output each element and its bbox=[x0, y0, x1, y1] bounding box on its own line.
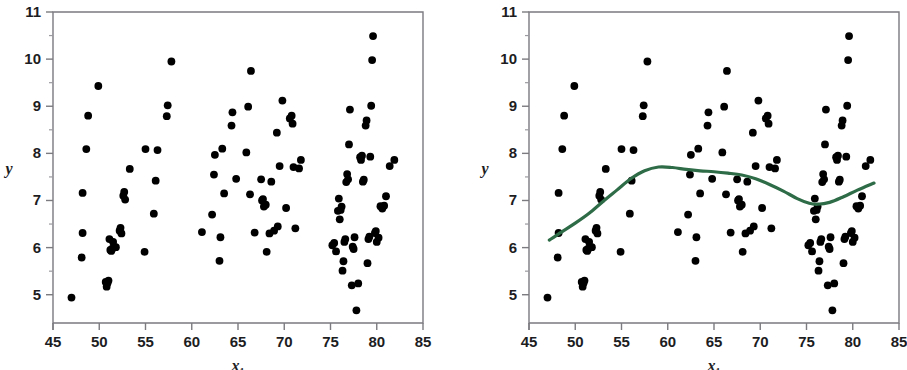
data-point bbox=[554, 254, 562, 262]
data-point bbox=[218, 145, 226, 153]
data-point bbox=[105, 277, 113, 285]
y-tick-label: 11 bbox=[25, 3, 41, 20]
data-point bbox=[380, 202, 388, 210]
data-point bbox=[839, 116, 847, 124]
data-point bbox=[684, 211, 692, 219]
data-point bbox=[765, 120, 773, 128]
data-point bbox=[267, 178, 275, 186]
plot-frame bbox=[53, 12, 423, 323]
data-point bbox=[764, 112, 772, 120]
y-tick-label: 8 bbox=[33, 144, 41, 161]
x-axis-title-subscript: 1 bbox=[240, 366, 245, 370]
data-point bbox=[815, 267, 823, 275]
data-point bbox=[602, 165, 610, 173]
x-tick-label: 80 bbox=[368, 333, 385, 350]
data-point bbox=[68, 294, 76, 302]
data-point bbox=[121, 196, 129, 204]
data-point bbox=[644, 58, 652, 66]
x-tick-label: 50 bbox=[91, 333, 108, 350]
data-point bbox=[341, 235, 349, 243]
data-point bbox=[282, 204, 290, 212]
data-point bbox=[555, 189, 563, 197]
data-point bbox=[844, 56, 852, 64]
data-point bbox=[274, 223, 282, 231]
data-point bbox=[168, 58, 176, 66]
data-point bbox=[354, 280, 362, 288]
data-point bbox=[843, 102, 851, 110]
x-tick-label: 85 bbox=[415, 333, 432, 350]
data-point bbox=[332, 247, 340, 255]
data-point bbox=[211, 151, 219, 159]
data-point bbox=[351, 233, 359, 241]
data-point bbox=[570, 82, 578, 90]
data-point bbox=[84, 112, 92, 120]
data-point bbox=[79, 229, 87, 237]
y-tick-label: 7 bbox=[33, 191, 41, 208]
x-tick-label: 45 bbox=[45, 333, 62, 350]
data-point bbox=[696, 190, 704, 198]
data-point bbox=[152, 177, 160, 185]
data-point bbox=[845, 32, 853, 40]
panel-scatterplot-with-smoother: 455055606570758085567891011x1y bbox=[479, 3, 907, 370]
data-point bbox=[639, 112, 647, 120]
data-point bbox=[723, 67, 731, 75]
dual-scatterplot-canvas: 455055606570758085567891011x1y4550556065… bbox=[0, 0, 907, 370]
data-point bbox=[94, 82, 102, 90]
data-point bbox=[834, 152, 842, 160]
data-point bbox=[367, 102, 375, 110]
data-point bbox=[78, 254, 86, 262]
data-point bbox=[727, 229, 735, 237]
data-point bbox=[755, 97, 763, 105]
data-point bbox=[273, 129, 281, 137]
x-axis-title: x1 bbox=[231, 357, 245, 370]
y-tick-label: 9 bbox=[509, 97, 517, 114]
data-point bbox=[120, 188, 128, 196]
x-axis-title: x1 bbox=[707, 357, 721, 370]
data-point bbox=[232, 175, 240, 183]
data-point bbox=[830, 280, 838, 288]
data-point bbox=[126, 165, 134, 173]
data-point bbox=[750, 223, 758, 231]
data-point bbox=[382, 192, 390, 200]
data-point bbox=[693, 233, 701, 241]
x-tick-label: 60 bbox=[659, 333, 676, 350]
data-point bbox=[338, 203, 346, 211]
data-point bbox=[686, 171, 694, 179]
data-point bbox=[210, 171, 218, 179]
data-point bbox=[720, 103, 728, 111]
data-point bbox=[82, 145, 90, 153]
data-point bbox=[674, 228, 682, 236]
data-point bbox=[806, 239, 814, 247]
data-point bbox=[216, 257, 224, 265]
x-tick-label: 50 bbox=[567, 333, 584, 350]
plot-frame bbox=[529, 12, 899, 323]
data-point bbox=[558, 145, 566, 153]
data-point bbox=[826, 245, 834, 253]
x-tick-label: 60 bbox=[183, 333, 200, 350]
data-point bbox=[246, 190, 254, 198]
data-point bbox=[708, 175, 716, 183]
data-point bbox=[229, 108, 237, 116]
data-point bbox=[345, 141, 353, 149]
data-point bbox=[247, 67, 255, 75]
data-point bbox=[758, 204, 766, 212]
y-tick-label: 5 bbox=[509, 286, 517, 303]
y-tick-label: 8 bbox=[509, 144, 517, 161]
data-point bbox=[279, 97, 287, 105]
data-point bbox=[353, 306, 361, 314]
data-point bbox=[163, 112, 171, 120]
data-point bbox=[217, 233, 225, 241]
x-tick-label: 70 bbox=[276, 333, 293, 350]
data-point bbox=[112, 243, 120, 251]
data-point bbox=[350, 245, 358, 253]
data-point bbox=[694, 145, 702, 153]
data-point bbox=[749, 129, 757, 137]
data-point bbox=[808, 247, 816, 255]
data-point bbox=[369, 32, 377, 40]
data-point bbox=[594, 230, 602, 238]
data-point bbox=[739, 248, 747, 256]
scatterplot-figure: 455055606570758085567891011x1y4550556065… bbox=[0, 0, 907, 370]
data-point bbox=[840, 259, 848, 267]
data-point bbox=[360, 176, 368, 184]
y-tick-label: 11 bbox=[501, 3, 517, 20]
